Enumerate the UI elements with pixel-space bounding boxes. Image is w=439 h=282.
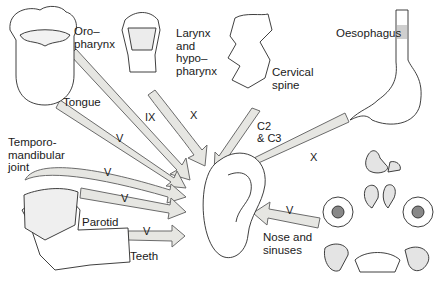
nerve-parotid: V	[121, 193, 128, 204]
maxillary-sinus-left	[324, 244, 348, 271]
ethmoid-sinus	[364, 185, 378, 208]
label-teeth: Teeth	[130, 250, 158, 263]
label-parotid: Parotid	[82, 216, 118, 229]
tongue-illustration	[10, 6, 77, 105]
arrow-teeth	[128, 225, 185, 247]
ear-illustration	[203, 153, 265, 258]
label-tongue: Tongue	[63, 96, 101, 109]
nerve-oesophagus: X	[310, 152, 317, 163]
nerve-larynx: X	[190, 110, 197, 121]
nerve-cervical: C2 & C3	[257, 120, 281, 144]
arrow-larynx	[148, 90, 207, 166]
frontal-sinus	[366, 151, 388, 173]
label-tmj: Temporo- mandibular joint	[8, 136, 65, 174]
diagram-artwork	[0, 0, 439, 282]
label-oropharynx: Oro– pharynx	[74, 25, 115, 50]
cervical-spine-illustration	[228, 14, 272, 88]
nerve-tongue: V	[116, 133, 123, 144]
label-oesophagus: Oesophagus	[336, 27, 401, 40]
nerve-nose: V	[286, 205, 293, 216]
nerve-tmj: V	[104, 167, 111, 178]
label-nose-sinuses: Nose and sinuses	[263, 231, 312, 256]
referred-otalgia-diagram: Oro– pharynx Larynx and hypo– pharynx Ce…	[0, 0, 439, 282]
label-cervical-spine: Cervical spine	[272, 66, 314, 91]
nerve-teeth: V	[143, 226, 150, 237]
nerve-oropharynx: IX	[145, 112, 155, 123]
label-larynx: Larynx and hypo– pharynx	[176, 27, 217, 77]
maxillary-sinus-right	[405, 247, 429, 271]
